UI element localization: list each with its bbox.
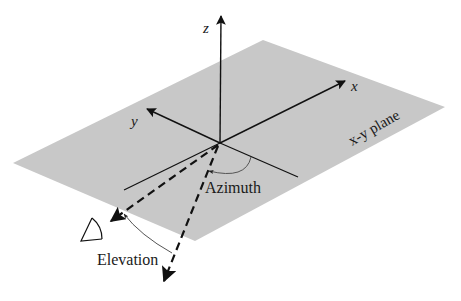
elevation-label: Elevation: [97, 251, 158, 268]
xy-plane: [13, 40, 445, 241]
x-axis-label: x: [350, 78, 358, 94]
z-axis-label: z: [202, 20, 209, 36]
coordinate-diagram: z x y x-y plane Azimuth Elevation: [0, 0, 461, 301]
y-axis-label: y: [129, 113, 138, 129]
azimuth-label: Azimuth: [205, 179, 261, 196]
eye-icon: [81, 218, 102, 241]
z-axis-arrow: [220, 16, 221, 143]
